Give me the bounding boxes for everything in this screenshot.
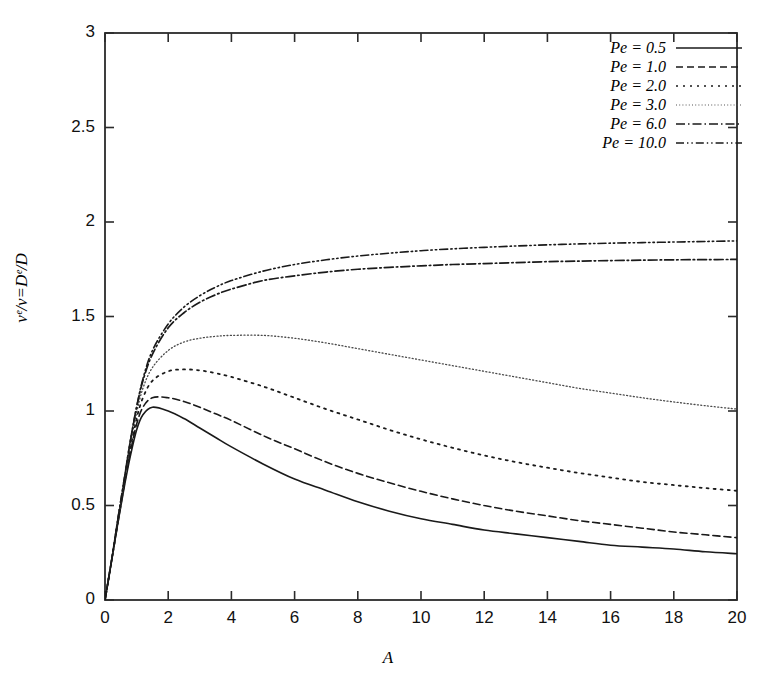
- x-tick-label: 2: [138, 608, 198, 628]
- legend-label: Pe = 0.5: [610, 39, 666, 57]
- series-group: [105, 241, 737, 600]
- legend-swatch-dotted: [674, 79, 744, 93]
- y-tick-label: 2: [37, 211, 95, 231]
- y-tick-label: 1.5: [37, 306, 95, 326]
- series-line: [105, 335, 737, 600]
- legend-label: Pe = 2.0: [610, 77, 666, 95]
- y-tick-label: 2.5: [37, 117, 95, 137]
- legend-item: Pe = 10.0: [574, 133, 744, 152]
- legend-item: Pe = 6.0: [574, 114, 744, 133]
- x-tick-label: 18: [644, 608, 704, 628]
- legend-swatch-dashed: [674, 60, 744, 74]
- x-tick-label: 16: [581, 608, 641, 628]
- legend-label: Pe = 10.0: [602, 134, 666, 152]
- y-tick-label: 0.5: [37, 495, 95, 515]
- legend-label: Pe = 6.0: [610, 115, 666, 133]
- y-tick-label: 3: [37, 22, 95, 42]
- legend-item: Pe = 0.5: [574, 38, 744, 57]
- chart-figure: vᵉ/v=Dᵉ/D A Pe = 0.5 Pe = 1.0 Pe = 2.0 P…: [0, 0, 776, 695]
- series-line: [105, 369, 737, 600]
- y-axis-title: vᵉ/v=Dᵉ/D: [12, 228, 32, 348]
- x-tick-label: 12: [454, 608, 514, 628]
- x-tick-label: 14: [517, 608, 577, 628]
- legend-swatch-fine-dotted: [674, 98, 744, 112]
- legend-item: Pe = 3.0: [574, 95, 744, 114]
- x-axis-title: A: [0, 648, 776, 668]
- legend-item: Pe = 2.0: [574, 76, 744, 95]
- series-line: [105, 259, 737, 600]
- legend-item: Pe = 1.0: [574, 57, 744, 76]
- x-tick-label: 4: [201, 608, 261, 628]
- y-tick-label: 0: [37, 589, 95, 609]
- series-line: [105, 241, 737, 600]
- legend-label: Pe = 1.0: [610, 58, 666, 76]
- legend-swatch-dash-dot-dot: [674, 136, 744, 150]
- x-tick-label: 8: [328, 608, 388, 628]
- x-tick-label: 10: [391, 608, 451, 628]
- x-tick-label: 0: [75, 608, 135, 628]
- legend-label: Pe = 3.0: [610, 96, 666, 114]
- x-tick-label: 6: [265, 608, 325, 628]
- x-tick-label: 20: [707, 608, 767, 628]
- chart-legend: Pe = 0.5 Pe = 1.0 Pe = 2.0 Pe = 3.0 Pe =…: [574, 38, 744, 152]
- legend-swatch-solid: [674, 41, 744, 55]
- y-tick-label: 1: [37, 400, 95, 420]
- series-line: [105, 407, 737, 600]
- legend-swatch-dash-dot: [674, 117, 744, 131]
